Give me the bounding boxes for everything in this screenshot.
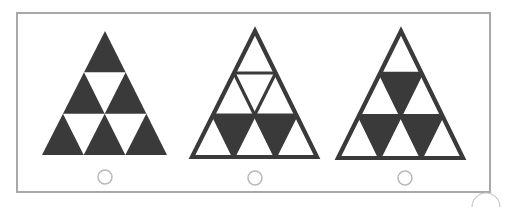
triangle-options-figure xyxy=(0,0,507,208)
radio-button-option-1[interactable] xyxy=(98,170,112,184)
answer-option-2[interactable] xyxy=(192,31,317,157)
answer-option-1[interactable] xyxy=(42,31,167,155)
radio-button-option-2[interactable] xyxy=(248,171,262,185)
answer-option-3[interactable] xyxy=(338,31,463,158)
partial-circle-artifact xyxy=(472,193,500,207)
radio-button-option-3[interactable] xyxy=(398,171,412,185)
outer-triangle xyxy=(192,31,317,157)
